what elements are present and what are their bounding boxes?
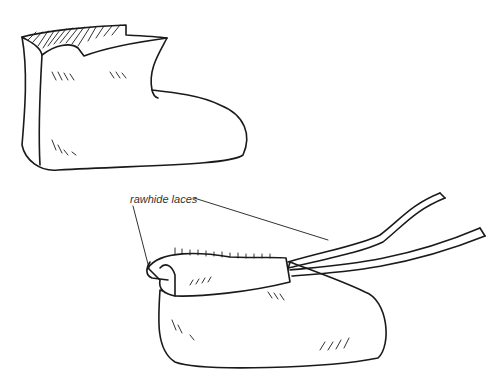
moccasin-boot-laced [133, 193, 485, 368]
moccasin-drawings [0, 0, 499, 384]
illustration-canvas: rawhide laces [0, 0, 499, 384]
rawhide-laces-label: rawhide laces [130, 193, 197, 205]
moccasin-boot-top [22, 25, 247, 170]
